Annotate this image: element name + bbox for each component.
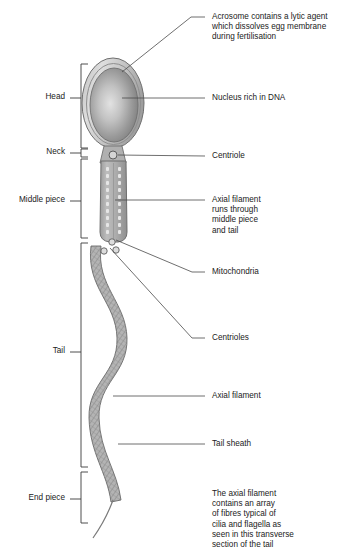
region-label-tail: Tail bbox=[53, 346, 65, 356]
callout-label-nucleus: Nucleus rich in DNA bbox=[212, 93, 285, 103]
callout-label-transverse-section: The axial filament contains an array of … bbox=[212, 489, 294, 550]
sperm-head bbox=[82, 58, 144, 148]
region-label-middle-piece: Middle piece bbox=[19, 195, 65, 205]
callout-label-acrosome: Acrosome contains a lytic agent which di… bbox=[212, 12, 328, 43]
centriole-distal-left bbox=[101, 248, 107, 254]
callout-label-centriole: Centriole bbox=[212, 151, 245, 161]
centriole-proximal bbox=[109, 239, 115, 245]
sperm-neck bbox=[100, 146, 126, 163]
callout-label-centrioles: Centrioles bbox=[212, 333, 249, 343]
leader-centriole bbox=[118, 155, 205, 156]
bracket-neck bbox=[81, 149, 88, 157]
callout-label-mitochondria: Mitochondria bbox=[212, 267, 259, 277]
tail-sheath bbox=[89, 246, 127, 502]
centriole-neck bbox=[109, 151, 117, 159]
region-label-neck: Neck bbox=[46, 147, 65, 157]
leader-acrosome bbox=[122, 17, 205, 72]
region-brackets bbox=[70, 64, 88, 523]
callout-label-tail-sheath: Tail sheath bbox=[212, 439, 251, 449]
bracket-tail bbox=[81, 243, 88, 467]
region-label-head: Head bbox=[45, 92, 65, 102]
leader-mitochondria bbox=[116, 240, 205, 272]
callout-label-axial-filament-tail: Axial filament bbox=[212, 391, 261, 401]
nucleus bbox=[90, 68, 138, 142]
sperm-tail bbox=[89, 246, 127, 538]
bracket-end-piece bbox=[81, 472, 88, 523]
region-label-end-piece: End piece bbox=[29, 493, 65, 503]
callout-label-axial-filament-middle: Axial filament runs through middle piece… bbox=[212, 195, 261, 236]
end-piece-filament bbox=[93, 500, 113, 538]
bracket-middle-piece bbox=[81, 159, 88, 238]
sperm-structure-diagram bbox=[0, 0, 347, 556]
middle-piece-body bbox=[100, 161, 127, 242]
